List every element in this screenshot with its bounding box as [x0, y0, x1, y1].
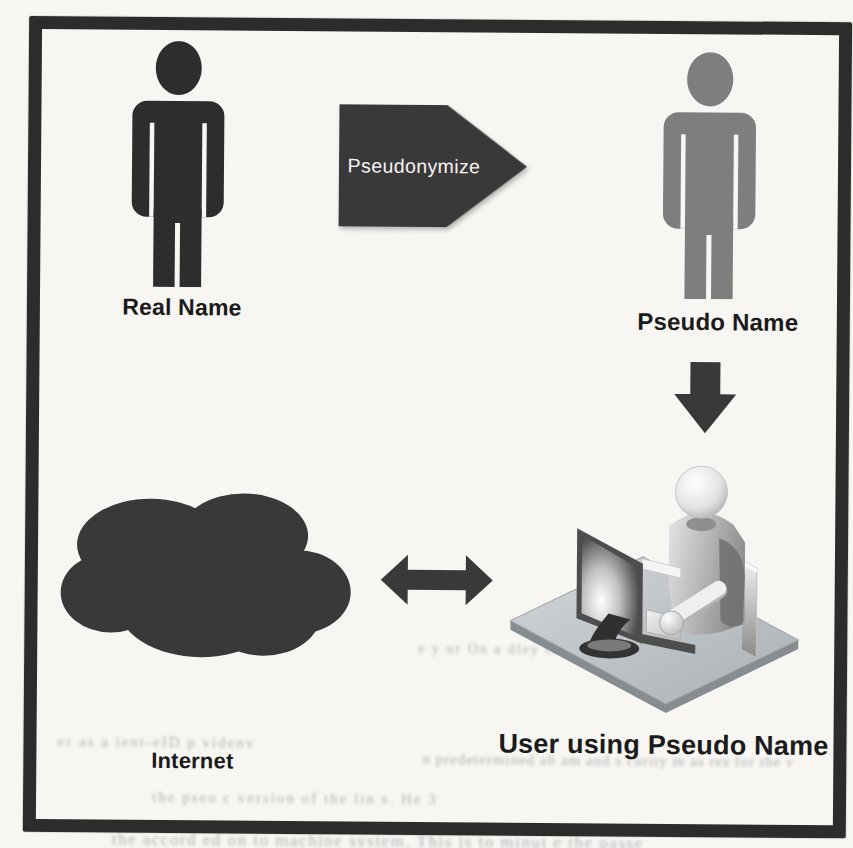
down-arrow-icon [674, 362, 737, 433]
pseudo-name-label: Pseudo Name [623, 308, 813, 337]
double-arrow-icon [381, 550, 493, 611]
ghost-text-line: the accord ed on to machine system. This… [112, 830, 644, 848]
person-icon [657, 52, 762, 300]
internet-label: Internet [107, 748, 277, 775]
pseudonymize-label: Pseudonymize [339, 104, 490, 227]
scanned-page: er as a ient-eID p videnv n predetermine… [0, 0, 853, 848]
user-pseudo-label: User using Pseudo Name [485, 728, 841, 762]
real-name-label: Real Name [92, 293, 272, 321]
cloud-icon [58, 480, 351, 670]
computer-user-icon [490, 443, 808, 715]
person-icon [126, 41, 230, 288]
